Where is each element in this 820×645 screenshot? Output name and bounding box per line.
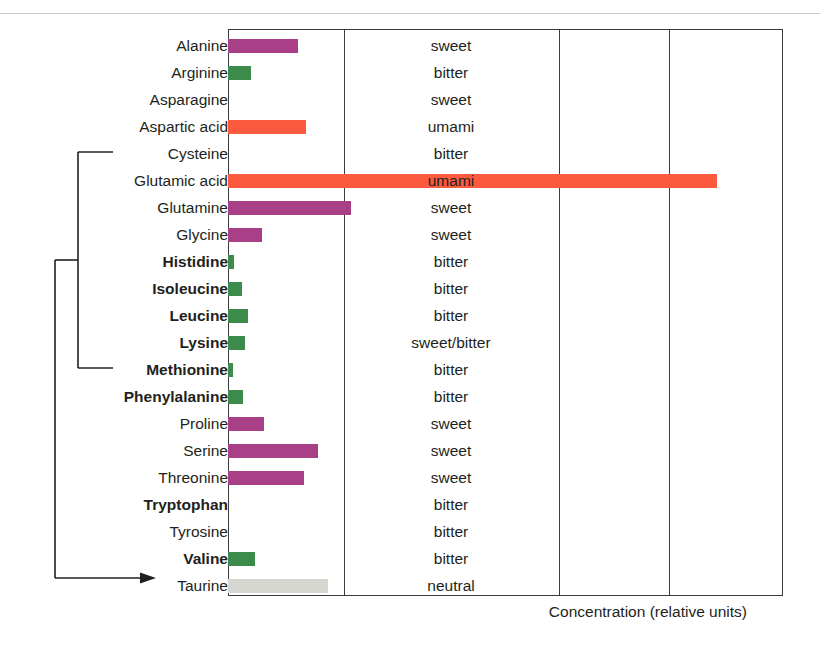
chart-row: Valinebitter: [0, 545, 820, 572]
amino-acid-label: Alanine: [0, 32, 228, 59]
chart-row: Methioninebitter: [0, 356, 820, 383]
chart-row: Isoleucinebitter: [0, 275, 820, 302]
taste-label: bitter: [228, 248, 674, 275]
amino-acid-label: Tyrosine: [0, 518, 228, 545]
amino-acid-label: Aspartic acid: [0, 113, 228, 140]
amino-acid-label: Taurine: [0, 572, 228, 599]
taste-label: bitter: [228, 383, 674, 410]
taste-label: neutral: [228, 572, 674, 599]
taste-label: bitter: [228, 275, 674, 302]
taste-label: sweet: [228, 437, 674, 464]
taste-label: bitter: [228, 518, 674, 545]
chart-row: Cysteinebitter: [0, 140, 820, 167]
amino-acid-concentration-chart: AlaninesweetArgininebitterAsparagineswee…: [0, 0, 820, 645]
taste-label: sweet: [228, 32, 674, 59]
amino-acid-label: Asparagine: [0, 86, 228, 113]
chart-row: Serinesweet: [0, 437, 820, 464]
amino-acid-label: Proline: [0, 410, 228, 437]
chart-row: Argininebitter: [0, 59, 820, 86]
amino-acid-label: Glutamine: [0, 194, 228, 221]
taste-label: bitter: [228, 302, 674, 329]
taste-label: sweet: [228, 86, 674, 113]
x-axis-title: Concentration (relative units): [0, 603, 783, 621]
chart-row: Phenylalaninebitter: [0, 383, 820, 410]
chart-row: Prolinesweet: [0, 410, 820, 437]
taste-label: sweet: [228, 410, 674, 437]
chart-row: Alaninesweet: [0, 32, 820, 59]
chart-row: Taurineneutral: [0, 572, 820, 599]
taste-label: sweet: [228, 464, 674, 491]
chart-row: Lysinesweet/bitter: [0, 329, 820, 356]
chart-row: Aspartic acidumami: [0, 113, 820, 140]
amino-acid-label: Valine: [0, 545, 228, 572]
chart-row: Histidinebitter: [0, 248, 820, 275]
chart-row: Asparaginesweet: [0, 86, 820, 113]
amino-acid-label: Histidine: [0, 248, 228, 275]
chart-row: Glycinesweet: [0, 221, 820, 248]
amino-acid-label: Isoleucine: [0, 275, 228, 302]
amino-acid-label: Arginine: [0, 59, 228, 86]
amino-acid-label: Lysine: [0, 329, 228, 356]
taste-label: umami: [228, 113, 674, 140]
taste-label: sweet: [228, 221, 674, 248]
taste-label: sweet: [228, 194, 674, 221]
amino-acid-label: Cysteine: [0, 140, 228, 167]
taste-label: sweet/bitter: [228, 329, 674, 356]
amino-acid-label: Glycine: [0, 221, 228, 248]
amino-acid-label: Glutamic acid: [0, 167, 228, 194]
taste-label: umami: [228, 167, 674, 194]
taste-label: bitter: [228, 59, 674, 86]
amino-acid-label: Phenylalanine: [0, 383, 228, 410]
taste-label: bitter: [228, 545, 674, 572]
chart-row: Leucinebitter: [0, 302, 820, 329]
chart-row: Tyrosinebitter: [0, 518, 820, 545]
amino-acid-label: Threonine: [0, 464, 228, 491]
amino-acid-label: Serine: [0, 437, 228, 464]
chart-row: Glutaminesweet: [0, 194, 820, 221]
taste-label: bitter: [228, 491, 674, 518]
chart-row: Tryptophanbitter: [0, 491, 820, 518]
amino-acid-label: Leucine: [0, 302, 228, 329]
chart-row: Glutamic acidumami: [0, 167, 820, 194]
amino-acid-label: Tryptophan: [0, 491, 228, 518]
taste-label: bitter: [228, 356, 674, 383]
amino-acid-label: Methionine: [0, 356, 228, 383]
chart-row: Threoninesweet: [0, 464, 820, 491]
taste-label: bitter: [228, 140, 674, 167]
